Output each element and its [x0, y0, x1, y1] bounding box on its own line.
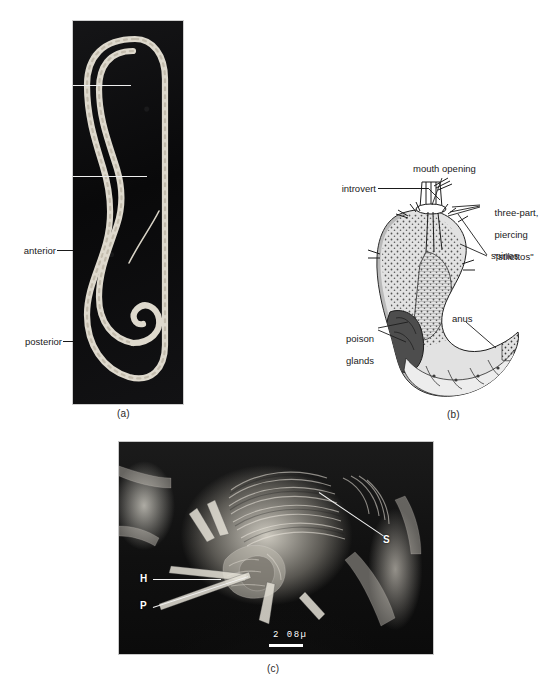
posterior-leader [63, 341, 73, 342]
sem-surface-detail [119, 442, 433, 654]
label-stilettos-line2: piercing [495, 229, 528, 240]
label-h: H [140, 573, 147, 584]
label-poison-glands-line2: glands [346, 355, 374, 366]
label-stilettos: three-part, piercing "stilettos" [484, 196, 538, 273]
anterior-leader [57, 250, 73, 251]
caption-panel-b: (b) [447, 409, 460, 420]
label-anterior: anterior [2, 245, 56, 256]
panel-c-electron-micrograph: S H P 2 08µ [118, 441, 434, 655]
label-s: S [383, 534, 390, 545]
anterior-leader-inner [73, 85, 131, 86]
posterior-leader-inner [73, 176, 147, 177]
label-mouth-opening: mouth opening [413, 163, 476, 174]
scale-bar-label: 2 08µ [273, 630, 308, 640]
h-leader [153, 579, 221, 580]
caption-panel-a: (a) [117, 408, 130, 419]
introvert-leader [378, 188, 428, 189]
label-anus: anus [452, 313, 473, 324]
worm-photo-illustration [73, 21, 183, 404]
label-stilettos-line1: three-part, [495, 207, 539, 218]
figure-root: anterior posterior (a) [0, 0, 549, 693]
label-spines: spines [491, 250, 518, 261]
label-p: P [140, 600, 147, 611]
scale-bar [269, 644, 303, 647]
label-poison-glands-line1: poison [346, 333, 374, 344]
panel-a-photomicrograph [72, 20, 184, 405]
caption-panel-c: (c) [267, 663, 279, 674]
label-introvert: introvert [320, 183, 376, 194]
label-poison-glands: poison glands [320, 322, 374, 377]
label-posterior: posterior [2, 336, 62, 347]
